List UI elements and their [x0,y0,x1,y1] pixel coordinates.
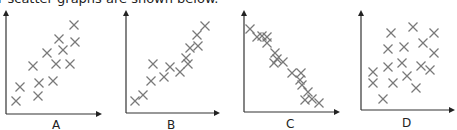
y-axis-arrow-icon [123,10,129,16]
cross-marker-icon [34,92,43,101]
cross-marker-icon [387,29,396,38]
cross-marker-icon [59,46,68,55]
cross-marker-icon [52,60,61,69]
cross-marker-icon [409,23,418,32]
cross-marker-icon [389,79,398,88]
x-axis-arrow-icon [449,107,455,113]
graph-label-c: C [286,117,294,130]
cross-marker-icon [131,97,140,106]
x-axis-arrow-icon [334,109,340,115]
cross-marker-icon [270,59,279,68]
cross-marker-icon [147,77,156,86]
cross-marker-icon [419,39,428,48]
cross-marker-icon [430,29,439,38]
scatter-graph-d [358,10,455,113]
cross-marker-icon [194,42,203,51]
scatter-graphs [0,0,457,130]
cross-marker-icon [166,63,175,72]
cross-marker-icon [384,45,393,54]
cross-marker-icon [398,59,407,68]
cross-marker-icon [384,63,393,72]
cross-marker-icon [186,44,195,53]
cross-marker-icon [70,21,79,30]
cross-marker-icon [55,35,64,44]
cross-marker-icon [426,66,435,75]
cross-marker-icon [193,31,202,40]
cross-marker-icon [288,69,297,78]
cross-marker-icon [160,73,169,82]
cross-marker-icon [417,62,426,71]
y-axis-arrow-icon [358,10,364,16]
graph-label-b: B [167,118,175,130]
cross-marker-icon [263,39,272,48]
cross-marker-icon [430,49,439,58]
y-axis-arrow-icon [241,10,247,16]
x-axis-arrow-icon [96,111,102,117]
cross-marker-icon [246,25,255,34]
y-axis-arrow-icon [3,10,9,16]
graph-label-a: A [52,118,60,130]
cross-marker-icon [35,79,44,88]
scatter-graph-c [241,10,340,115]
cross-marker-icon [139,91,148,100]
cross-marker-icon [12,97,21,106]
cross-marker-icon [66,60,75,69]
cross-marker-icon [176,68,185,77]
graph-label-d: D [402,116,411,130]
scatter-graph-b [123,10,220,116]
cross-marker-icon [71,38,80,47]
cross-marker-icon [412,84,421,93]
cross-marker-icon [16,83,25,92]
cross-marker-icon [369,79,378,88]
cross-marker-icon [369,68,378,77]
cross-marker-icon [43,49,52,58]
cross-marker-icon [49,77,58,86]
x-axis-arrow-icon [214,110,220,116]
scatter-graph-a [3,10,102,117]
cross-marker-icon [201,22,210,31]
cross-marker-icon [29,62,38,71]
cross-marker-icon [400,43,409,52]
cross-marker-icon [403,72,412,81]
cross-marker-icon [379,95,388,104]
cross-marker-icon [149,60,158,69]
